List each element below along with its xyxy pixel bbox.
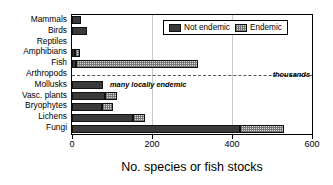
bar-segment-endemic: [102, 103, 113, 111]
legend: Not endemic Endemic: [163, 20, 288, 35]
bar-segment-endemic: [75, 49, 80, 57]
x-tick-label-400: 400: [224, 139, 239, 149]
y-axis-label-fungi: Fungi: [0, 122, 67, 133]
y-axis-label-bryophytes: Bryophytes: [0, 100, 67, 111]
legend-item-endemic: Endemic: [235, 23, 282, 32]
bar-fish: [72, 60, 198, 68]
x-axis-title: No. species or fish stocks: [71, 160, 313, 174]
bar-chart: MammalsBirdsReptilesAmphibiansFishArthro…: [0, 0, 333, 185]
y-axis-label-lichens: Lichens: [0, 111, 67, 122]
bar-vasc-plants: [72, 92, 117, 100]
bar-segment-endemic: [133, 114, 145, 122]
legend-label-not-endemic: Not endemic: [184, 23, 230, 32]
bar-segment-not-endemic: [72, 27, 87, 35]
bar-bryophytes: [72, 103, 113, 111]
y-axis-label-amphibians: Amphibians: [0, 46, 67, 57]
y-axis-label-vasc-plants: Vasc. plants: [0, 90, 67, 101]
bar-segment-not-endemic: [72, 81, 103, 89]
annotation-many-locally-endemic: many locally endemic: [110, 80, 186, 89]
y-axis-label-fish: Fish: [0, 57, 67, 68]
bar-segment-not-endemic: [72, 114, 133, 122]
y-axis-label-arthropods: Arthropods: [0, 68, 67, 79]
legend-dark-solid-swatch-icon: [169, 24, 181, 32]
y-axis-category-labels: MammalsBirdsReptilesAmphibiansFishArthro…: [0, 14, 67, 135]
legend-light-dotted-swatch-icon: [235, 24, 247, 32]
bar-mammals: [72, 16, 81, 24]
x-axis-ticks: 0200400600: [71, 135, 313, 147]
bar-segment-not-endemic: [72, 125, 240, 133]
bar-segment-not-endemic: [72, 16, 81, 24]
y-axis-label-birds: Birds: [0, 25, 67, 36]
bar-fungi: [72, 125, 284, 133]
x-tick-label-200: 200: [144, 139, 159, 149]
x-tick-label-600: 600: [304, 139, 319, 149]
annotation-thousands: thousands: [273, 70, 310, 79]
legend-item-not-endemic: Not endemic: [169, 23, 230, 32]
y-axis-label-mollusks: Mollusks: [0, 79, 67, 90]
bar-amphibians: [72, 49, 80, 57]
y-axis-label-reptiles: Reptiles: [0, 36, 67, 47]
bar-segment-not-endemic: [72, 103, 102, 111]
bar-lichens: [72, 114, 145, 122]
x-tick-label-0: 0: [69, 139, 74, 149]
legend-label-endemic: Endemic: [250, 23, 282, 32]
bar-segment-not-endemic: [72, 92, 105, 100]
y-axis-label-mammals: Mammals: [0, 14, 67, 25]
bar-mollusks: [72, 81, 103, 89]
bar-segment-endemic: [76, 60, 198, 68]
bar-segment-endemic: [240, 125, 284, 133]
bar-segment-endemic: [105, 92, 117, 100]
bar-birds: [72, 27, 87, 35]
